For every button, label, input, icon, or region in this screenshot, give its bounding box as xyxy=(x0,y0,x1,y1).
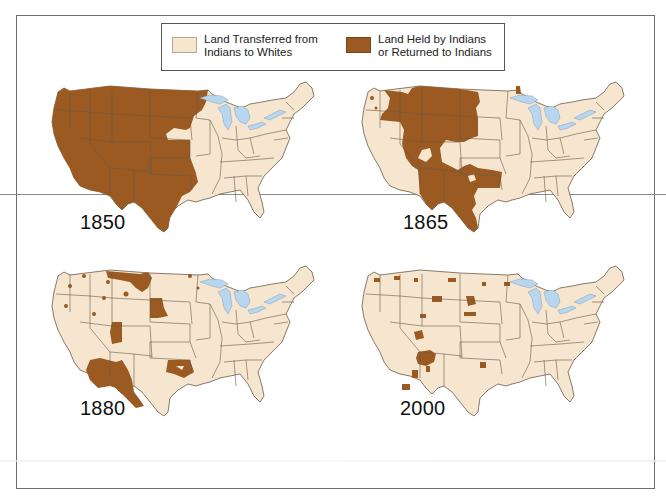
map-year-label-1850: 1850 xyxy=(80,211,125,234)
map-legend: Land Transferred from Indians to Whites … xyxy=(161,23,505,71)
legend-label-line: Land Transferred from xyxy=(204,33,318,46)
map-year-label-2000: 2000 xyxy=(400,397,445,420)
legend-swatch-held xyxy=(346,37,371,53)
legend-label-line: Indians to Whites xyxy=(204,46,318,59)
legend-swatch-transferred xyxy=(172,37,197,53)
held-land-region xyxy=(52,86,208,232)
map-year-label-1880: 1880 xyxy=(80,397,125,420)
legend-label-held: Land Held by Indians or Returned to Indi… xyxy=(378,33,492,59)
map-year-label-1865: 1865 xyxy=(403,211,448,234)
legend-label-line: or Returned to Indians xyxy=(378,46,492,59)
scan-artifact-band xyxy=(0,460,666,462)
map-1865 xyxy=(360,78,630,240)
legend-label-transferred: Land Transferred from Indians to Whites xyxy=(204,33,318,59)
legend-label-line: Land Held by Indians xyxy=(378,33,492,46)
